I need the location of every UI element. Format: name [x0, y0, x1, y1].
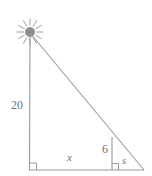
vertical-leg-line: [30, 33, 31, 170]
label-small-vertical-leg: 6: [102, 143, 108, 155]
label-vertical-leg: 20: [11, 99, 23, 111]
figure-canvas: [0, 0, 152, 176]
geometry-figure: 20 x 6 s: [0, 0, 152, 176]
label-small-base-leg: s: [122, 156, 126, 166]
right-angle-mark-post: [112, 164, 119, 171]
hypotenuse-line: [31, 34, 145, 171]
label-base-leg: x: [67, 152, 72, 163]
right-angle-mark-left: [30, 163, 37, 170]
